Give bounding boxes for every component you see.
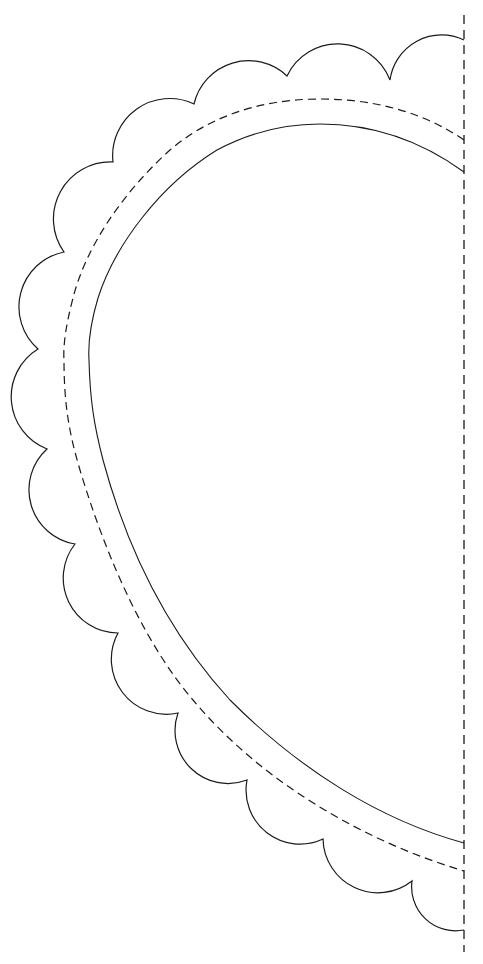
scalloped-outline (11, 35, 464, 931)
heart-template-canvas (0, 0, 483, 964)
solid-heart-line (89, 124, 464, 843)
dashed-heart-line (64, 99, 464, 871)
